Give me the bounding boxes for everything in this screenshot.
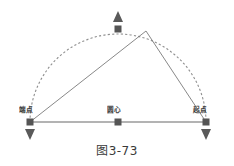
rubber-band-line-left — [30, 31, 146, 122]
midpoint-up-arrow-grip[interactable] — [113, 11, 123, 22]
midpoint-grip[interactable] — [115, 26, 122, 33]
left-endpoint-down-arrow-grip[interactable] — [25, 129, 35, 140]
startpoint-label: 起点 — [193, 106, 206, 114]
right-endpoint-grip[interactable] — [203, 119, 210, 126]
arc-diagram-canvas — [0, 0, 234, 166]
center-grip[interactable] — [115, 119, 122, 126]
left-endpoint-grip[interactable] — [27, 119, 34, 126]
endpoint-label: 端点 — [19, 106, 32, 114]
right-endpoint-down-arrow-grip[interactable] — [201, 129, 211, 140]
figure-container: 端点 圆心 起点 图3-73 — [0, 0, 234, 166]
center-label: 圆心 — [107, 106, 120, 114]
figure-caption: 图3-73 — [0, 144, 234, 158]
